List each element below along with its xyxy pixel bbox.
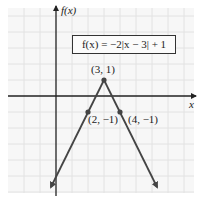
point-right-label: (4, −1) [128, 113, 158, 125]
point-left-label: (2, −1) [88, 113, 118, 125]
equation-box: f(x) = −2|x − 3| + 1 [72, 35, 176, 54]
x-axis-label: x [189, 98, 194, 110]
vertex-label: (3, 1) [91, 63, 115, 75]
point-right [117, 109, 122, 114]
y-axis-label: f(x) [61, 4, 76, 16]
point-vertex [101, 77, 106, 82]
plot-area [0, 0, 203, 199]
